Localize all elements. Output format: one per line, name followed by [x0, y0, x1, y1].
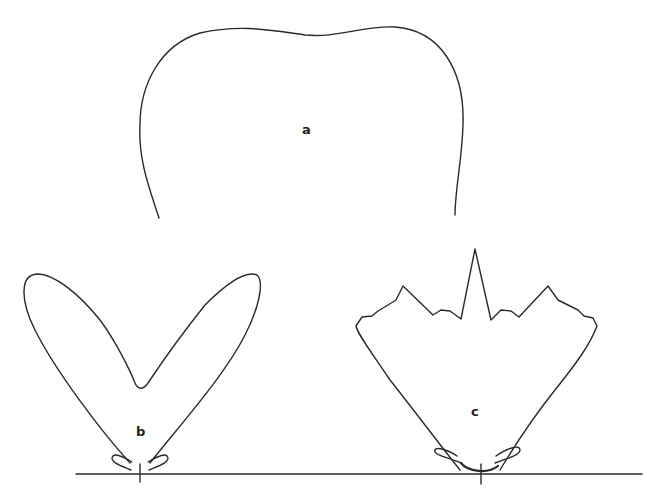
label-a: a: [302, 122, 311, 137]
label-c: c: [471, 404, 479, 419]
diagram-canvas: a b c: [0, 0, 646, 495]
pattern-c-bottom-arc: [461, 463, 498, 471]
pattern-c-right-sidelobe: [495, 447, 520, 463]
pattern-c-outline: [356, 249, 597, 470]
pattern-c-left-sidelobe: [435, 449, 461, 463]
label-b: b: [136, 424, 145, 439]
